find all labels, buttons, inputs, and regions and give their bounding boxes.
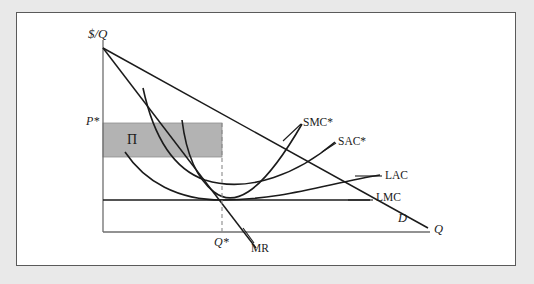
long-run-average-cost-curve — [125, 152, 380, 200]
lmc-curve-label: LMC — [376, 192, 401, 204]
demand-curve-label: D — [398, 212, 407, 225]
x-axis-label: Q — [434, 223, 443, 236]
sac-curve-label: SAC* — [338, 136, 366, 148]
profit-symbol-label: Π — [127, 133, 137, 147]
price-star-label: P* — [86, 115, 99, 127]
lac-curve-label: LAC — [385, 170, 408, 182]
quantity-star-label: Q* — [214, 236, 229, 248]
smc-leader-line — [283, 124, 301, 141]
y-axis-label: $/Q — [88, 27, 108, 40]
profit-rectangle — [103, 123, 222, 157]
smc-curve-label: SMC* — [303, 117, 333, 129]
mr-leader-line — [243, 228, 254, 243]
sac-leader-line — [322, 143, 336, 152]
mr-curve-label: MR — [251, 243, 269, 255]
